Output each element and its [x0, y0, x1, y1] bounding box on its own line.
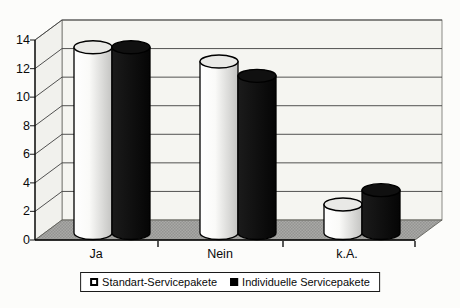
y-tick-label: 8 — [23, 119, 30, 133]
legend-item-individuelle: Individuelle Servicepakete — [230, 276, 370, 288]
bar-individuelle-servicepakete-nein — [238, 69, 276, 239]
bar-standart-servicepakete-k-a — [324, 198, 362, 240]
chart-canvas: 0 2 4 6 8 10 12 14 Ja Nein k.A. — [0, 0, 460, 308]
bar-individuelle-servicepakete-k-a — [362, 184, 400, 240]
cylinder-top — [112, 41, 150, 54]
cylinder-body — [112, 47, 150, 239]
cylinder-body — [200, 62, 238, 240]
y-tick-label: 14 — [16, 33, 30, 47]
chart-legend: Standart-Servicepakete Individuelle Serv… — [80, 272, 380, 292]
legend-label-standart: Standart-Servicepakete — [102, 276, 217, 288]
chart-side-wall — [35, 20, 62, 240]
cylinder-body — [362, 190, 400, 239]
x-axis-labels: Ja Nein k.A. — [89, 247, 357, 261]
y-tick-label: 12 — [16, 62, 30, 76]
chart-figure: 0 2 4 6 8 10 12 14 Ja Nein k.A. Standart… — [0, 0, 460, 308]
legend-label-individuelle: Individuelle Servicepakete — [242, 276, 370, 288]
legend-marker-standart-icon — [90, 278, 98, 286]
legend-marker-individuelle-icon — [230, 278, 238, 286]
cylinder-top — [74, 41, 112, 54]
y-axis-labels: 0 2 4 6 8 10 12 14 — [16, 33, 30, 247]
cylinder-top — [200, 55, 238, 68]
cylinder-body — [74, 47, 112, 239]
bar-individuelle-servicepakete-ja — [112, 41, 150, 240]
cylinder-top — [324, 198, 362, 211]
y-tick-label: 0 — [23, 233, 30, 247]
cylinder-top — [362, 184, 400, 197]
y-tick-label: 10 — [16, 90, 30, 104]
y-tick-label: 4 — [23, 176, 30, 190]
legend-item-standart: Standart-Servicepakete — [90, 276, 217, 288]
y-tick-label: 2 — [23, 204, 30, 218]
bar-standart-servicepakete-ja — [74, 41, 112, 240]
category-label-ja: Ja — [89, 247, 102, 261]
cylinder-body — [238, 76, 276, 240]
category-label-ka: k.A. — [336, 247, 358, 261]
y-tick-label: 6 — [23, 147, 30, 161]
cylinder-top — [238, 69, 276, 82]
bar-standart-servicepakete-nein — [200, 55, 238, 239]
category-label-nein: Nein — [207, 247, 233, 261]
